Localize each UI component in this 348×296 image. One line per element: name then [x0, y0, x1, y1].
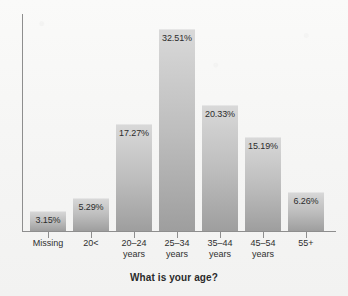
category-label-line1: 20<: [83, 238, 98, 248]
bar-value-label: 3.15%: [35, 215, 60, 225]
x-axis-category-label: Missing: [30, 238, 66, 260]
bar-chart: 3.15%5.29%17.27%32.51%20.33%15.19%6.26% …: [0, 0, 348, 296]
category-label-line2: years: [245, 249, 281, 260]
category-label-line1: 20–24: [121, 238, 146, 248]
x-axis-title: What is your age?: [0, 272, 348, 283]
bar-series: 3.15%5.29%17.27%32.51%20.33%15.19%6.26%: [22, 14, 336, 231]
category-label-line1: 45–54: [250, 238, 275, 248]
x-axis-category-label: 25–34years: [159, 238, 195, 260]
x-axis-category-label: 45–54years: [245, 238, 281, 260]
bar-slot: 3.15%: [30, 14, 66, 231]
bar-slot: 17.27%: [116, 14, 152, 231]
bar: [202, 105, 238, 231]
x-axis-category-label: 55+: [288, 238, 324, 260]
x-axis-category-label: 20<: [73, 238, 109, 260]
bar-value-label: 5.29%: [78, 202, 103, 212]
x-axis-category-labels: Missing20<20–24years25–34years35–44years…: [22, 238, 336, 260]
category-label-line1: 25–34: [164, 238, 189, 248]
category-label-line2: years: [202, 249, 238, 260]
x-axis-category-label: 35–44years: [202, 238, 238, 260]
category-label-line1: 35–44: [207, 238, 232, 248]
bar-value-label: 15.19%: [248, 141, 278, 151]
bar-slot: 6.26%: [288, 14, 324, 231]
bar-value-label: 17.27%: [119, 128, 149, 138]
bar-slot: 5.29%: [73, 14, 109, 231]
bar-slot: 32.51%: [159, 14, 195, 231]
bar-value-label: 20.33%: [205, 109, 235, 119]
category-label-line2: years: [159, 249, 195, 260]
bar-slot: 20.33%: [202, 14, 238, 231]
bar: [159, 29, 195, 231]
plot-area: 3.15%5.29%17.27%32.51%20.33%15.19%6.26%: [22, 14, 336, 232]
bar: [245, 137, 281, 231]
bar-value-label: 32.51%: [162, 33, 192, 43]
category-label-line2: years: [116, 249, 152, 260]
category-label-line1: 55+: [298, 238, 313, 248]
bar-value-label: 6.26%: [293, 196, 318, 206]
bar-slot: 15.19%: [245, 14, 281, 231]
x-axis-category-label: 20–24years: [116, 238, 152, 260]
category-label-line1: Missing: [33, 238, 64, 248]
bar: [116, 124, 152, 231]
